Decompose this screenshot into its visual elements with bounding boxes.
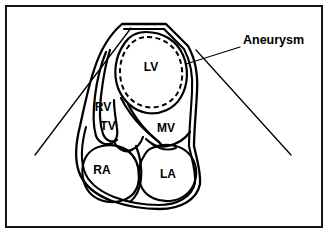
ra-chamber-outline (82, 145, 139, 202)
label-aneurysm: Aneurysm (243, 33, 304, 47)
figure-screenshot: LV RV TV MV RA LA Aneurysm (0, 0, 328, 233)
label-lv: LV (144, 60, 158, 74)
label-ra: RA (93, 163, 111, 177)
sector-line-right (196, 50, 291, 155)
label-rv: RV (95, 100, 111, 114)
label-tv: TV (100, 119, 115, 133)
heart-diagram: LV RV TV MV RA LA Aneurysm (0, 0, 328, 233)
label-la: LA (160, 167, 176, 181)
label-mv: MV (157, 121, 175, 135)
